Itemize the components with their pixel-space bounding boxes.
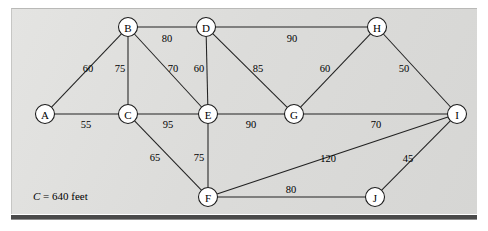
edge-weight-a-b: 60: [83, 63, 94, 74]
node-label-g: G: [290, 109, 298, 121]
edge-weight-g-h: 60: [320, 63, 331, 74]
graph-node-j[interactable]: J: [366, 188, 385, 207]
graph-node-h[interactable]: H: [368, 18, 387, 37]
edge-weight-c-e: 95: [163, 119, 174, 130]
graph-edge-d-g: [213, 34, 287, 108]
node-label-f: F: [205, 192, 211, 204]
node-label-h: H: [373, 22, 381, 34]
nodes-group: ABCDEFGHIJ: [36, 18, 467, 207]
graph-node-b[interactable]: B: [119, 18, 138, 37]
graph-node-a[interactable]: A: [36, 105, 55, 124]
graph-node-c[interactable]: C: [119, 105, 138, 124]
graph-edge-c-f: [135, 121, 202, 190]
node-label-a: A: [41, 109, 49, 121]
edge-weight-b-e: 70: [168, 63, 179, 74]
graph-node-e[interactable]: E: [199, 105, 218, 124]
caption-unit: feet: [71, 190, 87, 202]
edge-weight-e-f: 75: [194, 152, 205, 163]
node-label-d: D: [202, 22, 210, 34]
node-label-e: E: [205, 109, 212, 121]
edge-weight-h-i: 50: [399, 63, 410, 74]
edge-weight-d-h: 90: [287, 33, 298, 44]
edges-group: [52, 27, 451, 197]
node-label-i: I: [455, 109, 459, 121]
node-label-j: J: [373, 192, 378, 204]
graph-node-d[interactable]: D: [197, 18, 216, 37]
graph-edge-g-h: [301, 34, 371, 107]
edge-weight-b-d: 80: [162, 33, 173, 44]
graph-node-i[interactable]: I: [448, 105, 467, 124]
edge-weight-i-j: 45: [403, 153, 414, 164]
node-label-c: C: [124, 109, 131, 121]
node-label-b: B: [124, 22, 131, 34]
edge-weight-g-i: 70: [371, 119, 382, 130]
caption-total-cost: C = 640 feet: [33, 190, 88, 202]
edge-weight-d-e: 60: [194, 63, 205, 74]
edge-weight-a-c: 55: [81, 119, 92, 130]
edge-weight-b-c: 75: [115, 63, 126, 74]
edge-weight-d-g: 85: [253, 63, 264, 74]
edge-weight-c-f: 65: [150, 152, 161, 163]
graph-figure: 6055758070956560859075906070501208045 AB…: [0, 0, 488, 231]
bottom-divider-rule: [11, 215, 477, 220]
graph-edge-h-i: [383, 34, 450, 107]
graph-node-f[interactable]: F: [199, 188, 218, 207]
caption-value: 640: [52, 190, 69, 202]
graph-node-g[interactable]: G: [285, 105, 304, 124]
edge-weight-f-i: 120: [320, 153, 336, 164]
edge-weight-f-j: 80: [286, 184, 297, 195]
graph-edge-i-j: [382, 121, 451, 190]
edge-weight-e-g: 90: [246, 119, 257, 130]
